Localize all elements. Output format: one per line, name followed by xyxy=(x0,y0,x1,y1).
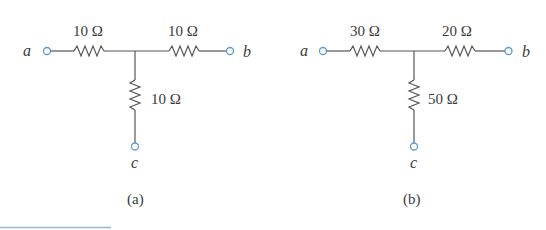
resistor-right-a-value: 10 Ω xyxy=(168,23,198,39)
terminal-c-label: c xyxy=(131,154,138,171)
circuit-figure: a b c 10 Ω 10 Ω 10 Ω (a) a b xyxy=(0,0,546,230)
terminal-b-node xyxy=(505,48,512,55)
terminal-a-label: a xyxy=(23,42,31,59)
resistor-bottom-b xyxy=(409,80,419,110)
terminal-a-node xyxy=(320,48,327,55)
resistor-right-a xyxy=(169,46,199,56)
resistor-bottom-a xyxy=(130,80,140,110)
resistor-right-b xyxy=(445,46,475,56)
resistor-bottom-b-value: 50 Ω xyxy=(428,91,458,107)
terminal-c-node xyxy=(132,143,139,150)
resistor-left-a-value: 10 Ω xyxy=(73,23,103,39)
resistor-left-b xyxy=(350,46,380,56)
terminal-b-label: b xyxy=(522,43,530,60)
circuit-b: a b c 30 Ω 20 Ω 50 Ω (b) xyxy=(300,23,530,208)
terminal-b-label: b xyxy=(243,43,251,60)
terminal-a-label: a xyxy=(300,42,308,59)
caption-b: (b) xyxy=(403,191,421,208)
terminal-b-node xyxy=(227,48,234,55)
resistor-right-b-value: 20 Ω xyxy=(442,23,472,39)
terminal-a-node xyxy=(44,48,51,55)
resistor-bottom-a-value: 10 Ω xyxy=(151,91,181,107)
resistor-left-a xyxy=(74,46,104,56)
caption-a: (a) xyxy=(127,191,144,208)
terminal-c-node xyxy=(411,143,418,150)
circuit-a: a b c 10 Ω 10 Ω 10 Ω (a) xyxy=(23,23,251,208)
terminal-c-label: c xyxy=(410,154,417,171)
resistor-left-b-value: 30 Ω xyxy=(350,23,380,39)
